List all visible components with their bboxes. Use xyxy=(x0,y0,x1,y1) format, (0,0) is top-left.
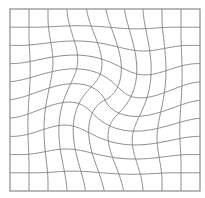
horizontal-grid-lines xyxy=(10,26,200,175)
horizontal-grid-line xyxy=(10,69,200,98)
vertical-grid-line xyxy=(180,9,182,191)
vertical-grid-line xyxy=(59,9,78,191)
swirl-grid-diagram xyxy=(0,0,205,198)
horizontal-grid-line xyxy=(10,84,200,117)
horizontal-grid-line xyxy=(10,55,200,75)
vertical-grid-line xyxy=(132,9,151,191)
distorted-grid xyxy=(0,0,205,198)
horizontal-grid-line xyxy=(10,26,200,29)
horizontal-grid-line xyxy=(10,171,200,174)
vertical-grid-line xyxy=(157,9,166,191)
vertical-grid-line xyxy=(73,9,102,191)
vertical-grid-line xyxy=(108,9,137,191)
horizontal-grid-line xyxy=(10,149,200,159)
horizontal-grid-line xyxy=(10,41,200,51)
horizontal-grid-line xyxy=(10,102,200,131)
vertical-grid-line xyxy=(28,9,30,191)
horizontal-grid-line xyxy=(10,125,200,145)
vertical-grid-line xyxy=(44,9,53,191)
